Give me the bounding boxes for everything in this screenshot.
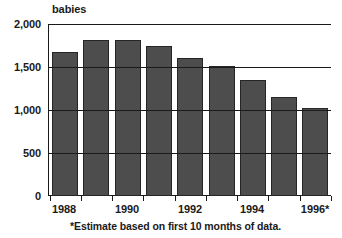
y-tick-label-0: 0 [35,190,41,202]
x-axis-labels: 1988 1990 1992 1994 1996* [48,203,331,219]
bar-chart: babies 2,000 1,500 1,000 500 0 1988 1990 [0,0,342,238]
x-tick-8 [300,196,301,201]
x-tick-label-1994: 1994 [240,203,264,215]
gridline-500 [48,153,331,154]
y-tick-label-1500: 1,500 [14,61,41,73]
chart-footnote: *Estimate based on first 10 months of da… [70,220,281,232]
x-tick-5 [206,196,207,201]
x-tick-3 [143,196,144,201]
bar-1988[interactable] [52,52,78,196]
x-tick-label-1992: 1992 [178,203,202,215]
bar-1991[interactable] [146,46,172,196]
x-axis-ticks [48,196,331,202]
x-tick-label-1996: 1996* [301,203,329,215]
x-tick-0 [50,196,51,201]
y-axis-labels: 2,000 1,500 1,000 500 0 [0,0,46,238]
gridline-1500 [48,67,331,68]
y-tick-label-1000: 1,000 [14,104,41,116]
x-tick-4 [175,196,176,201]
y-axis-unit-label: babies [52,3,86,15]
x-tick-label-1988: 1988 [52,203,76,215]
x-tick-1 [81,196,82,201]
x-tick-6 [237,196,238,201]
x-tick-2 [112,196,113,201]
gridline-1000 [48,110,331,111]
plot-area [48,24,331,196]
x-tick-label-1990: 1990 [115,203,139,215]
y-tick-label-500: 500 [23,147,41,159]
bar-1994[interactable] [240,80,266,196]
bar-1995[interactable] [271,97,297,196]
y-tick-label-2000: 2,000 [14,18,41,30]
bar-1990[interactable] [115,40,141,197]
x-tick-9 [331,196,332,201]
bar-1992[interactable] [177,58,203,196]
x-tick-7 [268,196,269,201]
bar-1993[interactable] [209,66,235,196]
bar-1989[interactable] [83,40,109,196]
